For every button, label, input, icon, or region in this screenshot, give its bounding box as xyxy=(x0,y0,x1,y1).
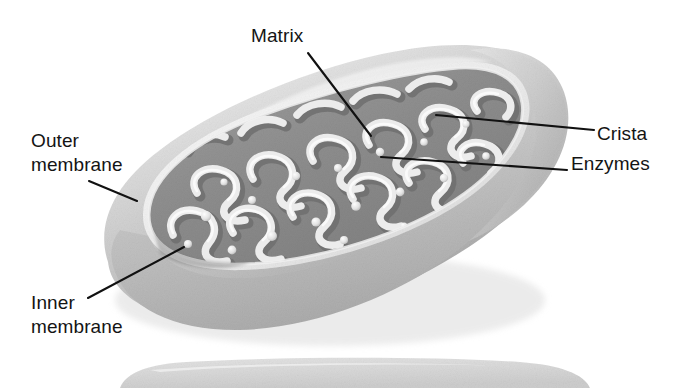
mitochondrion-body xyxy=(104,40,568,346)
label-inner-membrane: Inner membrane xyxy=(31,291,123,339)
second-mitochondrion-partial xyxy=(120,358,590,388)
mitochondrion-figure: Matrix Outer membrane Crista Enzymes Inn… xyxy=(0,0,684,388)
label-matrix: Matrix xyxy=(251,24,303,48)
label-enzymes: Enzymes xyxy=(571,152,650,176)
label-crista: Crista xyxy=(597,122,647,146)
label-outer-membrane: Outer membrane xyxy=(31,129,123,177)
